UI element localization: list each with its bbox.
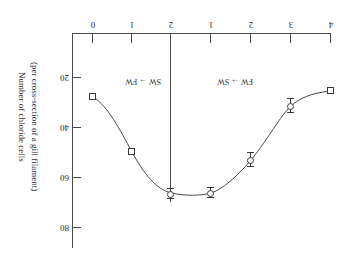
data-curve (0, 0, 352, 272)
error-bar-cap (167, 188, 174, 189)
chart-rotated-container: 4 3 2 1 2 1 0 80 60 40 20 (per cross-sec… (0, 0, 352, 272)
figure-canvas: 4 3 2 1 2 1 0 80 60 40 20 (per cross-sec… (0, 0, 352, 272)
data-point (287, 103, 294, 110)
data-point (167, 191, 174, 198)
data-point (247, 157, 254, 164)
error-bar-cap (287, 98, 294, 99)
data-point (128, 148, 135, 155)
error-bar-cap (207, 197, 214, 198)
error-bar-cap (247, 166, 254, 167)
data-point (207, 190, 214, 197)
error-bar-cap (247, 152, 254, 153)
error-bar-cap (167, 198, 174, 199)
data-point (89, 93, 96, 100)
data-point (327, 87, 334, 94)
error-bar-cap (287, 112, 294, 113)
error-bar-cap (207, 187, 214, 188)
